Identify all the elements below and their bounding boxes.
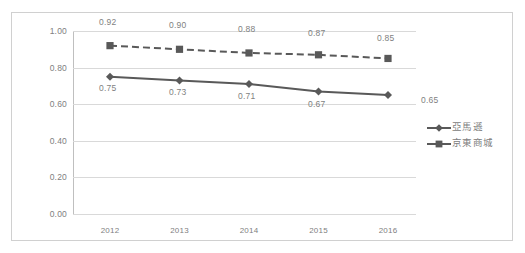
data-point-marker bbox=[176, 76, 184, 84]
legend-item-jd[interactable]: 京東商城 bbox=[426, 134, 512, 150]
data-point-marker bbox=[384, 91, 392, 99]
legend-item-amazon[interactable]: 亞馬遜 bbox=[426, 118, 512, 134]
data-point-marker bbox=[106, 42, 113, 49]
data-point-marker bbox=[245, 80, 253, 88]
markers-jd bbox=[106, 42, 391, 62]
x-axis-tick-label: 2015 bbox=[309, 226, 328, 235]
data-label: 0.92 bbox=[99, 17, 116, 27]
data-label: 0.85 bbox=[377, 33, 394, 43]
legend-label-jd: 京東商城 bbox=[452, 135, 493, 149]
x-axis-tick-label: 2016 bbox=[379, 226, 398, 235]
x-axis-tick-label: 2012 bbox=[101, 226, 120, 235]
legend-key-square-icon bbox=[426, 136, 452, 148]
data-point-marker bbox=[176, 46, 183, 53]
data-label: 0.65 bbox=[421, 95, 438, 105]
legend-label-amazon: 亞馬遜 bbox=[452, 119, 483, 133]
data-label: 0.67 bbox=[308, 99, 325, 109]
plot-area: 1.00 0.80 0.60 0.40 0.20 0.00 2012 2013 … bbox=[73, 31, 416, 214]
y-axis-tick-label: 0.60 bbox=[50, 99, 67, 109]
y-axis-tick-label: 0.40 bbox=[50, 136, 67, 146]
y-axis-tick-label: 1.00 bbox=[50, 26, 67, 36]
chart-legend: 亞馬遜 京東商城 bbox=[426, 118, 512, 150]
data-point-marker bbox=[106, 73, 114, 81]
y-axis-tick-label: 0.20 bbox=[50, 172, 67, 182]
data-label: 0.88 bbox=[238, 24, 255, 34]
data-label: 0.71 bbox=[238, 91, 255, 101]
x-axis-tick-label: 2014 bbox=[240, 226, 259, 235]
x-axis-tick-label: 2013 bbox=[170, 226, 189, 235]
data-point-marker bbox=[315, 51, 322, 58]
y-axis-tick-label: 0.80 bbox=[50, 63, 67, 73]
data-label: 0.73 bbox=[169, 87, 186, 97]
data-point-marker bbox=[245, 49, 252, 56]
data-label: 0.87 bbox=[308, 28, 325, 38]
data-label: 0.75 bbox=[99, 83, 116, 93]
chart-container: 1.00 0.80 0.60 0.40 0.20 0.00 2012 2013 … bbox=[11, 12, 513, 241]
data-point-marker bbox=[315, 87, 323, 95]
legend-key-diamond-icon bbox=[426, 120, 452, 132]
data-point-marker bbox=[384, 55, 391, 62]
data-label: 0.90 bbox=[169, 20, 186, 30]
y-axis-tick-label: 0.00 bbox=[50, 209, 67, 219]
series-svg bbox=[73, 31, 416, 214]
gridline bbox=[73, 214, 416, 215]
